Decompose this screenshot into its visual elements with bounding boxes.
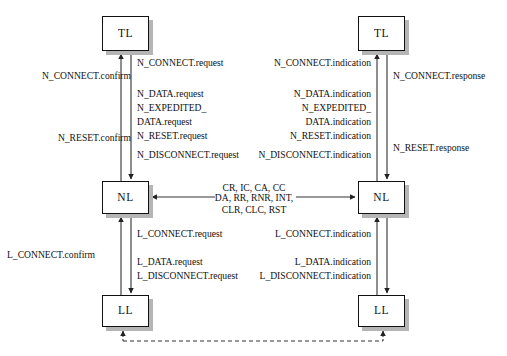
primitive-label: N_RESET.confirm — [58, 132, 131, 144]
primitive-label: L_DISCONNECT.indication — [260, 270, 371, 282]
primitive-label: L_DISCONNECT.request — [137, 270, 238, 282]
node-nl-right[interactable]: NL — [358, 181, 405, 214]
node-label: TL — [374, 28, 389, 40]
node-nl-left[interactable]: NL — [102, 181, 149, 214]
node-label: LL — [374, 305, 389, 317]
primitive-label: N_DISCONNECT.request — [137, 149, 239, 161]
primitive-label: DATA.request — [137, 116, 192, 128]
primitive-label: L_DATA.request — [137, 256, 203, 268]
node-tl-right[interactable]: TL — [358, 16, 405, 51]
primitive-label: N_RESET.response — [393, 142, 469, 154]
primitive-label: L_CONNECT.confirm — [7, 249, 95, 261]
primitive-label: N_DATA.request — [137, 88, 204, 100]
primitive-label: N_CONNECT.confirm — [42, 70, 131, 82]
node-tl-left[interactable]: TL — [102, 16, 149, 51]
node-ll-right[interactable]: LL — [358, 295, 405, 327]
primitive-label: N_RESET.request — [137, 130, 207, 142]
primitive-label: N_CONNECT.request — [137, 57, 223, 69]
primitive-label: DA, RR, RNR, INT, — [215, 192, 293, 204]
primitive-label: L_CONNECT.request — [137, 228, 222, 240]
node-label: LL — [118, 305, 133, 317]
primitive-label: N_DATA.indication — [294, 88, 371, 100]
primitive-label: N_DISCONNECT.indication — [258, 149, 371, 161]
primitive-label: CLR, CLC, RST — [222, 204, 287, 216]
primitive-label: N_RESET.indication — [290, 130, 371, 142]
node-ll-left[interactable]: LL — [102, 295, 149, 327]
primitive-label: L_CONNECT.indication — [275, 228, 371, 240]
primitive-label: L_DATA.indication — [295, 256, 371, 268]
physical-medium-dashed-path — [123, 331, 383, 341]
connector-lines — [0, 0, 507, 356]
primitive-label: N_EXPEDITED_ — [302, 102, 371, 114]
primitive-label: N_CONNECT.indication — [274, 57, 371, 69]
node-label: NL — [373, 192, 390, 204]
primitive-label: N_CONNECT.response — [393, 70, 485, 82]
node-label: TL — [118, 28, 133, 40]
primitive-label: N_EXPEDITED_ — [137, 102, 206, 114]
primitive-label: DATA.indication — [305, 116, 371, 128]
node-label: NL — [117, 192, 134, 204]
diagram-canvas: TL TL NL NL LL LL N_CONNECT.confirmN_RES… — [0, 0, 507, 356]
